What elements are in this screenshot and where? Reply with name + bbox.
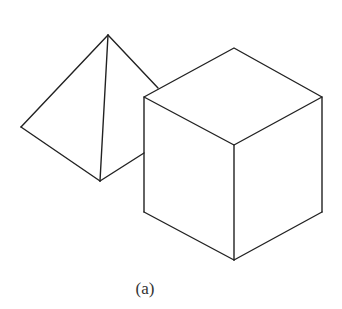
figure: (a)	[0, 0, 342, 309]
cube-edge-bottom-left	[144, 212, 234, 260]
cube	[144, 48, 322, 260]
pyramid-edge-base-right	[100, 153, 144, 181]
cube-edge-bottom-right	[234, 212, 322, 260]
figure-caption: (a)	[125, 279, 165, 299]
pyramid-edge-center	[100, 35, 108, 181]
pyramid-edge-base-left	[21, 127, 100, 181]
cube-top-face	[144, 48, 322, 145]
diagram-canvas	[0, 0, 342, 309]
pyramid	[21, 35, 158, 181]
pyramid-edge-left	[21, 35, 108, 127]
pyramid-edge-right	[108, 35, 158, 88]
